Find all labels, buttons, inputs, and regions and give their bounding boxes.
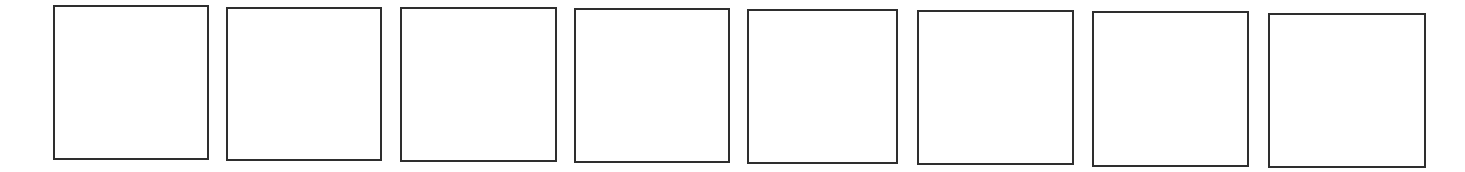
- empty-box-8: [1268, 13, 1426, 168]
- empty-box-5: [747, 9, 898, 164]
- box-row-diagram: [0, 0, 1465, 172]
- empty-box-1: [53, 5, 209, 160]
- empty-box-6: [917, 10, 1074, 165]
- empty-box-3: [400, 7, 557, 162]
- empty-box-7: [1092, 11, 1249, 167]
- empty-box-2: [226, 7, 382, 161]
- empty-box-4: [574, 8, 730, 163]
